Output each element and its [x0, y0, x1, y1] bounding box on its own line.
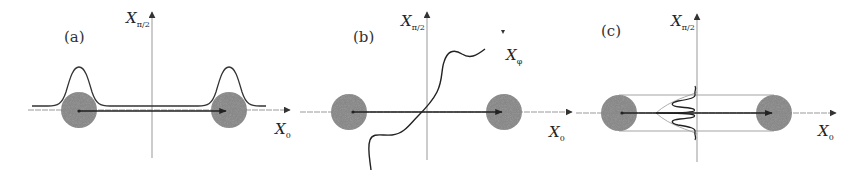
panel-label-c: (c): [601, 22, 621, 40]
y-axis-label-c: Xπ/2: [670, 12, 695, 32]
x-phi-arrowhead: [501, 30, 505, 34]
x-axis-label-a: X0: [274, 120, 291, 140]
coherent-state-disk-right: [211, 92, 247, 128]
rotated-axis-label-b: Xφ: [505, 46, 523, 66]
panel-label-b: (b): [353, 28, 374, 46]
figure: (a) Xπ/2 X0 (b) Xπ/2 Xφ X0: [0, 0, 864, 180]
x-axis-label-c: X0: [817, 122, 834, 142]
x-axis-label-b: X0: [548, 123, 565, 143]
panel-a: (a) Xπ/2 X0: [28, 9, 291, 158]
panel-label-a: (a): [64, 28, 85, 46]
panel-c: (c) Xπ/2 X0: [576, 12, 836, 162]
y-axis-label-b: Xπ/2: [400, 12, 425, 32]
y-axis-label-a: Xπ/2: [125, 9, 150, 29]
panel-b: (b) Xπ/2 Xφ X0: [300, 12, 572, 170]
